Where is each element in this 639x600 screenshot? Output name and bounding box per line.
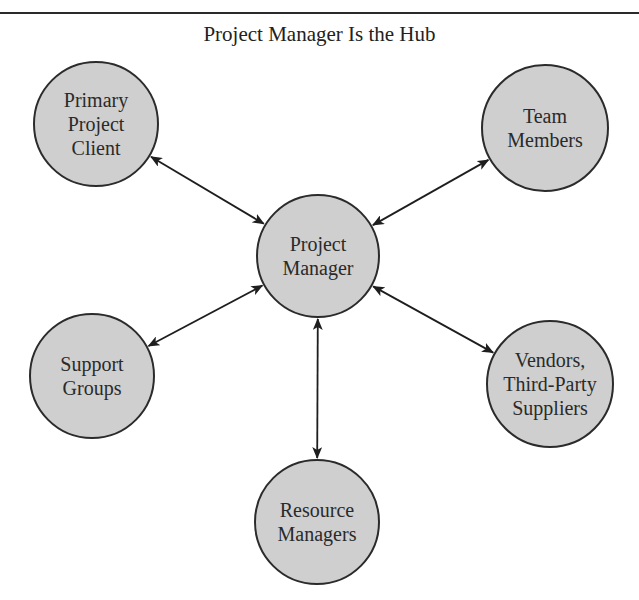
node-team-members: Team Members bbox=[481, 64, 609, 192]
connector-arrow bbox=[151, 157, 264, 224]
node-label: Primary Project Client bbox=[64, 88, 128, 160]
node-project-manager: Project Manager bbox=[256, 194, 380, 318]
node-vendors-third-party-suppliers: Vendors, Third-Party Suppliers bbox=[486, 320, 614, 448]
node-label: Support Groups bbox=[60, 352, 123, 400]
connector-arrow bbox=[373, 286, 493, 352]
node-resource-managers: Resource Managers bbox=[254, 459, 380, 585]
node-primary-project-client: Primary Project Client bbox=[33, 61, 159, 187]
connector-arrow bbox=[373, 160, 489, 225]
connector-arrow bbox=[149, 286, 263, 347]
node-label: Resource Managers bbox=[278, 498, 357, 546]
node-label: Vendors, Third-Party Suppliers bbox=[503, 348, 596, 420]
connector-arrow bbox=[317, 319, 318, 458]
node-support-groups: Support Groups bbox=[29, 313, 155, 439]
node-label: Project Manager bbox=[282, 232, 353, 280]
node-label: Team Members bbox=[507, 104, 583, 152]
